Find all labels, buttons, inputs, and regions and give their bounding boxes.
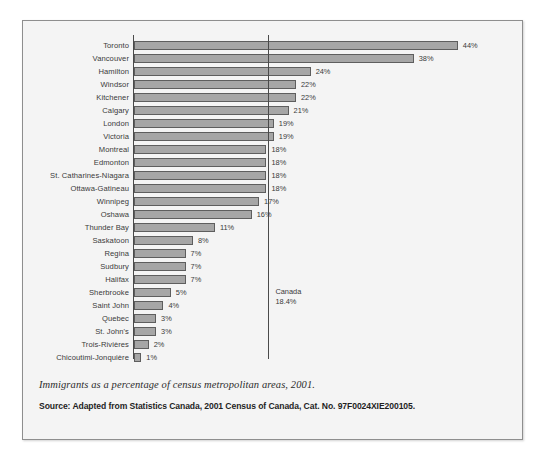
- bar-category-label: Calgary: [23, 104, 134, 117]
- bar-category-label: London: [23, 117, 134, 130]
- bar-value-label: 4%: [168, 301, 179, 310]
- bar-category-label: Vancouver: [23, 52, 134, 65]
- bar-row: Calgary21%: [23, 104, 522, 117]
- bar-value-label: 22%: [301, 80, 316, 89]
- bar: [134, 262, 186, 271]
- chart-baseline-axis: [133, 35, 134, 359]
- bar: [134, 327, 156, 336]
- bar-value-label: 3%: [161, 327, 172, 336]
- bar-track: 1%: [134, 351, 522, 364]
- bar-track: 18%: [134, 156, 522, 169]
- bar-value-label: 38%: [419, 54, 434, 63]
- bar-row: Montreal18%: [23, 143, 522, 156]
- bar-track: 18%: [134, 169, 522, 182]
- bar-row: Quebec3%: [23, 312, 522, 325]
- bar-chart: Canada 18.4% Toronto44%Vancouver38%Hamil…: [23, 21, 522, 371]
- bar-category-label: Edmonton: [23, 156, 134, 169]
- bar-row: Toronto44%: [23, 39, 522, 52]
- bar-category-label: Hamilton: [23, 65, 134, 78]
- bar-row: Halifax7%: [23, 273, 522, 286]
- bar-value-label: 18%: [271, 145, 286, 154]
- bar-row: Saint John4%: [23, 299, 522, 312]
- bar-value-label: 21%: [294, 106, 309, 115]
- bar: [134, 223, 215, 232]
- bar-value-label: 18%: [271, 171, 286, 180]
- canada-reference-label: Canada: [275, 287, 301, 297]
- bar-row: Windsor22%: [23, 78, 522, 91]
- bar-category-label: Toronto: [23, 39, 134, 52]
- bar-value-label: 1%: [146, 353, 157, 362]
- bar-category-label: Saskatoon: [23, 234, 134, 247]
- bar: [134, 93, 296, 102]
- bar-track: 38%: [134, 52, 522, 65]
- bar-row-list: Toronto44%Vancouver38%Hamilton24%Windsor…: [23, 39, 522, 364]
- bar-value-label: 7%: [191, 275, 202, 284]
- bar-value-label: 11%: [220, 223, 234, 232]
- bar-row: Thunder Bay11%: [23, 221, 522, 234]
- bar-value-label: 19%: [279, 132, 294, 141]
- bar-category-label: Chicoutimi-Jonquière: [23, 351, 134, 364]
- bar-value-label: 8%: [198, 236, 209, 245]
- bar-track: 17%: [134, 195, 522, 208]
- caption-block: Immigrants as a percentage of census met…: [39, 379, 506, 411]
- bar-row: Chicoutimi-Jonquière1%: [23, 351, 522, 364]
- bar-value-label: 7%: [191, 249, 202, 258]
- bar-track: 18%: [134, 182, 522, 195]
- bar-row: London19%: [23, 117, 522, 130]
- bar-track: 44%: [134, 39, 522, 52]
- bar: [134, 236, 193, 245]
- bar-category-label: Oshawa: [23, 208, 134, 221]
- bar-value-label: 7%: [191, 262, 202, 271]
- bar-track: 3%: [134, 312, 522, 325]
- bar-row: Victoria19%: [23, 130, 522, 143]
- bar-value-label: 18%: [271, 158, 286, 167]
- bar-row: Vancouver38%: [23, 52, 522, 65]
- bar-row: Saskatoon8%: [23, 234, 522, 247]
- bar-track: 3%: [134, 325, 522, 338]
- figure-source: Source: Adapted from Statistics Canada, …: [39, 401, 506, 411]
- figure-caption: Immigrants as a percentage of census met…: [39, 379, 506, 390]
- bar: [134, 184, 266, 193]
- bar: [134, 171, 266, 180]
- bar-row: Edmonton18%: [23, 156, 522, 169]
- bar: [134, 301, 163, 310]
- bar-row: Sudbury7%: [23, 260, 522, 273]
- bar-row: Sherbrooke5%: [23, 286, 522, 299]
- bar-category-label: Halifax: [23, 273, 134, 286]
- bar-category-label: Regina: [23, 247, 134, 260]
- bar-track: 2%: [134, 338, 522, 351]
- bar-value-label: 16%: [257, 210, 272, 219]
- bar: [134, 106, 289, 115]
- canada-reference-annotation: Canada 18.4%: [275, 287, 301, 306]
- bar-value-label: 18%: [271, 184, 286, 193]
- bar-track: 19%: [134, 117, 522, 130]
- bar-track: 18%: [134, 143, 522, 156]
- bar-row: Kitchener22%: [23, 91, 522, 104]
- bar-row: Hamilton24%: [23, 65, 522, 78]
- bar-category-label: Trois-Rivières: [23, 338, 134, 351]
- bar-track: 7%: [134, 247, 522, 260]
- bar-row: St. John's3%: [23, 325, 522, 338]
- bar-row: Ottawa-Gatineau18%: [23, 182, 522, 195]
- bar-category-label: Kitchener: [23, 91, 134, 104]
- bar: [134, 249, 186, 258]
- bar: [134, 288, 171, 297]
- bar-category-label: Windsor: [23, 78, 134, 91]
- bar-category-label: Sudbury: [23, 260, 134, 273]
- bar-track: 8%: [134, 234, 522, 247]
- bar-value-label: 17%: [264, 197, 279, 206]
- bar-row: Oshawa16%: [23, 208, 522, 221]
- bar-category-label: Victoria: [23, 130, 134, 143]
- bar-value-label: 19%: [279, 119, 294, 128]
- bar: [134, 275, 186, 284]
- bar-value-label: 2%: [154, 340, 165, 349]
- bar: [134, 145, 266, 154]
- bar-value-label: 3%: [161, 314, 172, 323]
- bar: [134, 314, 156, 323]
- bar-category-label: Thunder Bay: [23, 221, 134, 234]
- bar-category-label: Quebec: [23, 312, 134, 325]
- bar: [134, 80, 296, 89]
- bar-category-label: Winnipeg: [23, 195, 134, 208]
- bar-track: 21%: [134, 104, 522, 117]
- figure-panel: Canada 18.4% Toronto44%Vancouver38%Hamil…: [22, 20, 523, 440]
